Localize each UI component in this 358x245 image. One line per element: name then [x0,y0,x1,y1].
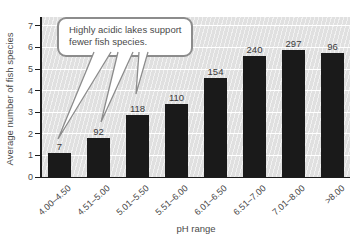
y-tick-label-2: 2 [19,129,33,139]
y-tick-3 [35,112,40,113]
y-tick-label-6: 6 [19,42,33,52]
y-tick-2 [35,133,40,134]
bar-count-label: 110 [169,92,184,103]
y-tick-4 [35,90,40,91]
bar-4.00–4.50 [48,153,71,177]
y-tick-label-7: 7 [19,21,33,31]
y-tick-label-5: 5 [19,64,33,74]
annotation-callout: Highly acidic lakes support fewer fish s… [57,17,193,57]
x-tick-label: 4.00–4.50 [37,183,73,217]
bar-count-label: 118 [130,103,145,114]
x-tick-label: 5.51–6.00 [154,183,190,217]
y-tick-label-4: 4 [19,86,33,96]
x-tick-label: >8.00 [323,183,347,206]
bar-4.51–5.00 [87,138,110,177]
bar-count-label: 240 [247,44,263,55]
y-tick-1 [35,155,40,156]
bar-count-label: 7 [57,141,62,152]
y-tick-label-0: 0 [19,172,33,182]
annotation-text-line2: fewer fish species. [69,36,185,48]
y-tick-5 [35,69,40,70]
bar-5.01–5.50 [126,115,149,177]
bar-count-label: 96 [327,41,338,52]
y-tick-6 [35,47,40,48]
y-axis-title: Average number of fish species [4,33,15,166]
bar-7.01–8.00 [282,50,305,177]
x-axis-title: pH range [176,223,215,234]
y-tick-0 [35,177,40,178]
annotation-text-line1: Highly acidic lakes support [69,24,185,36]
x-axis-line [37,177,350,179]
x-tick-label: 5.01–5.50 [115,183,151,217]
y-axis-line [40,17,42,178]
bar-count-label: 92 [93,126,104,137]
fish-species-ph-bar-chart: 79211811015424029796 01234567 4.00–4.504… [0,0,358,245]
x-tick-label: 7.01–8.00 [271,183,307,217]
bar-count-label: 297 [286,38,302,49]
bar-count-label: 154 [208,66,224,77]
x-tick-label: 4.51–5.00 [76,183,112,217]
bar-6.51–7.00 [243,56,266,177]
x-tick-label: 6.51–7.00 [232,183,268,217]
y-tick-label-3: 3 [19,107,33,117]
x-tick-label: 6.01–6.50 [193,183,229,217]
bar->8.00 [321,53,344,177]
bar-6.01–6.50 [204,78,227,177]
bar-5.51–6.00 [165,104,188,177]
y-tick-label-1: 1 [19,150,33,160]
y-tick-7 [35,25,40,26]
